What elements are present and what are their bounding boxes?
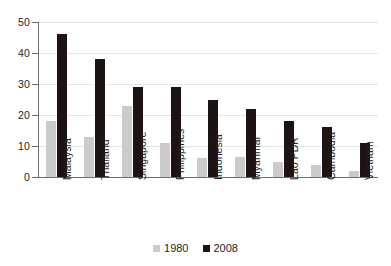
y-tick-label: 20 [0,110,30,120]
bar-1980-singapore [122,106,132,177]
bar-1980-indonesia [197,158,207,177]
y-tick-mark [32,115,38,116]
legend-item: 2008 [203,243,238,254]
bar-1980-malaysia [46,121,56,177]
x-tick-label: Myanmar [250,136,262,180]
legend-label: 2008 [214,243,238,254]
y-tick-mark [32,146,38,147]
chart-legend: 19802008 [0,243,391,254]
y-tick-mark [32,177,38,178]
bar-1980-myanmar [235,157,245,177]
x-tick-label: Malaysia [61,138,73,180]
y-tick-label: 0 [0,172,30,182]
x-axis-category-labels: MalaysiaThailandSingaporePhilippinesIndo… [38,180,378,242]
y-tick-mark [32,22,38,23]
bar-chart: 01020304050 MalaysiaThailandSingaporePhi… [0,0,391,266]
y-tick-label: 40 [0,48,30,58]
bar-1980-cambodia [311,165,321,177]
y-tick-label: 50 [0,17,30,27]
x-tick-label: Indonesia [212,134,224,180]
x-tick-label: Thailand [99,139,111,180]
bar-1980-vietnam [349,171,359,177]
x-tick-label: Cambodia [325,132,337,180]
x-tick-label: Vietnam [363,141,375,180]
y-tick-label: 10 [0,141,30,151]
legend-item: 1980 [153,243,188,254]
legend-swatch-1980 [153,245,160,252]
y-tick-mark [32,84,38,85]
x-tick-label: Philippines [174,129,186,180]
y-tick-label: 30 [0,79,30,89]
bar-1980-lao-pdr [273,162,283,178]
x-tick-label: Lao PDR [288,137,300,180]
x-tick-label: Singapore [136,132,148,180]
legend-swatch-2008 [203,245,210,252]
y-tick-mark [32,53,38,54]
y-axis: 01020304050 [0,0,30,190]
bar-1980-philippines [160,143,170,177]
bar-1980-thailand [84,137,94,177]
legend-label: 1980 [164,243,188,254]
